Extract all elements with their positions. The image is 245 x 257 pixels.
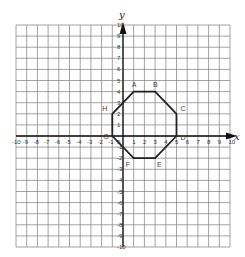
y-tick-label: -5 bbox=[117, 189, 123, 195]
y-tick-label: -10 bbox=[117, 244, 126, 250]
y-tick-label: -8 bbox=[117, 222, 123, 228]
x-tick-label: 6 bbox=[186, 139, 190, 145]
x-tick-label: -4 bbox=[76, 139, 82, 145]
x-tick-label: 9 bbox=[218, 139, 222, 145]
x-tick-label: -1 bbox=[108, 139, 114, 145]
y-tick-label: -9 bbox=[117, 233, 123, 239]
x-tick-label: -10 bbox=[12, 139, 21, 145]
y-tick-label: -4 bbox=[117, 177, 123, 183]
x-tick-label: -7 bbox=[44, 139, 50, 145]
y-tick-label: -7 bbox=[117, 211, 123, 217]
vertex-label-f: F bbox=[126, 161, 130, 168]
vertex-label-c: C bbox=[181, 105, 186, 112]
x-tick-label: -5 bbox=[66, 139, 72, 145]
vertex-label-e: E bbox=[157, 161, 162, 168]
x-tick-label: 1 bbox=[132, 139, 136, 145]
vertex-label-h: H bbox=[102, 105, 107, 112]
x-tick-label: -9 bbox=[23, 139, 29, 145]
x-tick-label: 8 bbox=[207, 139, 211, 145]
x-tick-label: -8 bbox=[33, 139, 39, 145]
x-tick-label: 3 bbox=[154, 139, 158, 145]
vertex-label-b: B bbox=[153, 81, 158, 88]
x-tick-label: -6 bbox=[55, 139, 61, 145]
vertex-label-g: G bbox=[103, 133, 108, 140]
x-tick-label: 2 bbox=[143, 139, 147, 145]
axes: x y bbox=[16, 9, 240, 247]
y-axis-label: y bbox=[118, 9, 125, 20]
y-tick-label: -6 bbox=[117, 200, 123, 206]
x-tick-label: 5 bbox=[175, 139, 179, 145]
y-tick-label: -3 bbox=[117, 166, 123, 172]
vertex-label-a: A bbox=[132, 81, 137, 88]
x-tick-label: -3 bbox=[87, 139, 93, 145]
x-tick-label: 10 bbox=[229, 139, 236, 145]
x-tick-label: 7 bbox=[196, 139, 200, 145]
coordinate-plane: x y -10-9-8-7-6-5-4-3-2-1123456789101098… bbox=[0, 0, 245, 257]
y-tick-label: 10 bbox=[117, 22, 124, 28]
x-tick-label: 4 bbox=[164, 139, 168, 145]
vertex-label-d: D bbox=[181, 134, 186, 141]
vertex-labels: ABCDEFGH bbox=[102, 81, 185, 169]
y-tick-label: -2 bbox=[117, 155, 123, 161]
